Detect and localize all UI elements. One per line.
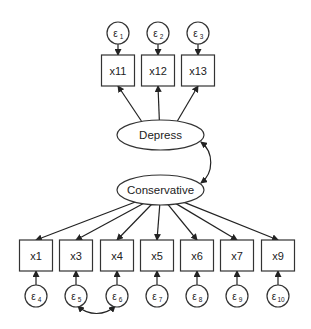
error-subscript: 3 <box>200 33 204 40</box>
sem-path-diagram: DepressConservativex11ε1x12ε2x13ε3x1ε4x3… <box>0 0 311 329</box>
covariance-depress-conservative <box>201 142 211 183</box>
error-label: ε <box>152 291 157 302</box>
error-subscript: 6 <box>119 296 123 303</box>
error-epsilon-5: ε5 <box>65 285 87 307</box>
error-label: ε <box>272 291 277 302</box>
error-label: ε <box>113 28 118 39</box>
error-circle <box>106 285 128 307</box>
observed-label: x12 <box>149 65 167 77</box>
observed-label: x13 <box>189 65 207 77</box>
error-epsilon-1: ε1 <box>107 22 129 44</box>
observed-x3: x3 <box>60 240 93 271</box>
error-label: ε <box>112 291 117 302</box>
path-depress-x11 <box>118 86 141 121</box>
error-label: ε <box>193 28 198 39</box>
path-depress-x13 <box>177 86 198 121</box>
error-epsilon-3: ε3 <box>187 22 209 44</box>
observed-label: x11 <box>110 65 127 77</box>
error-circle <box>107 22 129 44</box>
error-subscript: 9 <box>239 296 243 303</box>
observed-x7: x7 <box>221 240 254 271</box>
error-circle <box>147 22 169 44</box>
error-label: ε <box>71 291 76 302</box>
latent-conservative: Conservative <box>117 175 204 205</box>
error-subscript: 7 <box>159 296 163 303</box>
error-subscript: 4 <box>38 296 42 303</box>
error-label: ε <box>192 291 197 302</box>
observed-x13: x13 <box>182 55 215 86</box>
observed-label: x3 <box>70 250 82 262</box>
error-label: ε <box>31 291 36 302</box>
error-epsilon-6: ε6 <box>106 285 128 307</box>
error-circle <box>226 285 248 307</box>
latent-depress: Depress <box>117 120 204 150</box>
observed-x4: x4 <box>101 240 134 271</box>
error-epsilon-7: ε7 <box>146 285 168 307</box>
observed-label: x4 <box>111 250 123 262</box>
error-circle <box>65 285 87 307</box>
error-circle <box>187 22 209 44</box>
observed-x12: x12 <box>142 55 175 86</box>
path-conservative-x9 <box>183 202 278 240</box>
latent-label: Conservative <box>127 184 194 196</box>
observed-label: x5 <box>151 250 163 262</box>
error-subscript: 2 <box>160 33 164 40</box>
observed-label: x9 <box>272 250 284 262</box>
observed-x11: x11 <box>102 55 135 86</box>
latent-label: Depress <box>139 129 182 141</box>
error-epsilon-10: ε10 <box>267 285 289 307</box>
error-epsilon-8: ε8 <box>186 285 208 307</box>
path-conservative-x5 <box>157 204 160 240</box>
error-label: ε <box>232 291 237 302</box>
covariance-e5-e6 <box>78 306 115 314</box>
error-epsilon-2: ε2 <box>147 22 169 44</box>
observed-x6: x6 <box>181 240 214 271</box>
observed-x1: x1 <box>20 240 53 271</box>
path-conservative-x3 <box>76 203 144 240</box>
observed-label: x7 <box>231 250 243 262</box>
error-subscript: 5 <box>78 296 82 303</box>
path-conservative-x4 <box>117 204 152 240</box>
observed-label: x1 <box>30 250 42 262</box>
error-epsilon-9: ε9 <box>226 285 248 307</box>
path-conservative-x6 <box>167 204 197 240</box>
observed-label: x6 <box>191 250 203 262</box>
error-subscript: 1 <box>120 33 124 40</box>
error-subscript: 10 <box>277 296 285 303</box>
observed-x9: x9 <box>262 240 295 271</box>
error-circle <box>186 285 208 307</box>
observed-x5: x5 <box>141 240 174 271</box>
nodes-layer: DepressConservativex11ε1x12ε2x13ε3x1ε4x3… <box>20 22 295 307</box>
path-conservative-x7 <box>175 203 237 240</box>
error-epsilon-4: ε4 <box>25 285 47 307</box>
error-circle <box>25 285 47 307</box>
path-depress-x12 <box>158 86 159 121</box>
error-circle <box>146 285 168 307</box>
error-label: ε <box>153 28 158 39</box>
error-subscript: 8 <box>199 296 203 303</box>
